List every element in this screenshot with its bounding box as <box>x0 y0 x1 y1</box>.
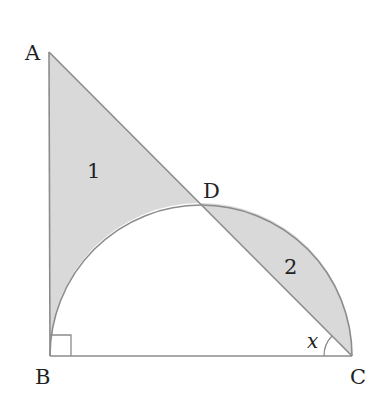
geometry-diagram: A B C D 1 2 x <box>0 0 383 405</box>
vertex-label-a: A <box>24 41 41 65</box>
shaded-region-1 <box>49 52 200 356</box>
right-angle-mark <box>50 335 71 356</box>
angle-x-arc <box>324 336 332 356</box>
vertex-label-c: C <box>350 365 366 389</box>
vertex-label-b: B <box>35 365 50 389</box>
angle-label-x: x <box>307 329 318 353</box>
side-ab <box>49 52 50 356</box>
region-label-1: 1 <box>87 159 100 183</box>
vertex-label-d: D <box>203 179 220 203</box>
region-label-2: 2 <box>284 255 297 279</box>
